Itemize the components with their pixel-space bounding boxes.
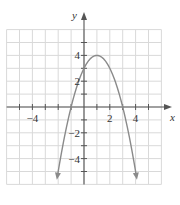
y-tick-label: −2 [68,127,80,139]
y-axis-label: y [71,9,77,21]
x-tick-label: −4 [27,112,39,124]
y-tick-label: −4 [68,153,80,165]
x-tick-label: 2 [107,112,113,124]
y-tick-label: 4 [75,49,81,61]
x-tick-label: 4 [133,112,139,124]
x-axis-arrow-icon [164,104,172,110]
parabola-chart: −42442−2−4 x y [0,0,180,205]
y-axis-arrow-icon [81,12,87,20]
x-axis-label: x [169,111,175,123]
y-tick-label: 2 [75,75,81,87]
